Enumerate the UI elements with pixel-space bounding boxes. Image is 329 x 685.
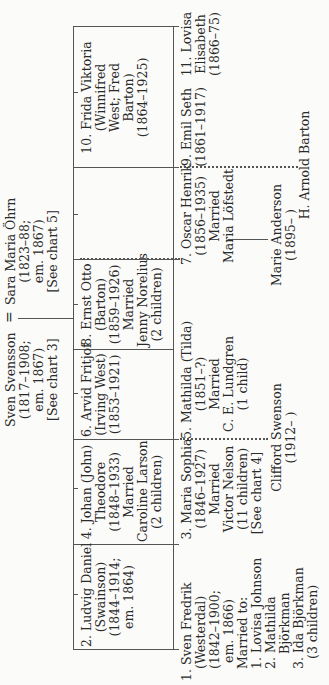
father-dates: (1817–1908; (18, 332, 32, 427)
sibling-bracket-top (73, 27, 74, 650)
descent-line (18, 318, 73, 319)
child-name: Oscar Henrik (179, 164, 194, 249)
child-2: 2. Ludvig Daniel (Swainson) (1844–1914; … (80, 547, 136, 647)
marriage-symbol: = (2, 311, 16, 323)
child-name: Johan (John) (79, 445, 94, 523)
father-chart-ref: [See chart 3] (46, 332, 60, 427)
grandchild-clifford: Clifford Swenson (1912– ) (270, 380, 298, 495)
descent-line (228, 239, 268, 240)
grandchild-name: Clifford Swenson (270, 380, 284, 495)
grandchild-marie: Marie Anderson (1895– ) (270, 180, 298, 290)
child-7: 7. Oscar Henrik (1856–1935) Married Mari… (180, 167, 236, 265)
child-name: Frida Viktoria (79, 41, 94, 129)
divider (73, 167, 173, 168)
genealogy-chart: Sven Svensson (1817–1908; em. 1867) [See… (0, 0, 329, 685)
child-name: Maria Sophia (179, 438, 194, 523)
tick (73, 92, 78, 93)
tick (73, 594, 78, 595)
mother-name: Sara Maria Öhrn (4, 198, 18, 305)
dotted-descent-line (180, 438, 268, 440)
child-3: 3. Maria Sophia (1846–1927) Married Vict… (180, 433, 264, 545)
grandchild-name: H. Arnold Barton (298, 105, 312, 225)
grandchild-arnold: H. Arnold Barton (298, 105, 312, 225)
father-entry: Sven Svensson (1817–1908; em. 1867) [See… (4, 332, 60, 427)
child-name: Emil Seth (179, 88, 194, 150)
child-name: Ludvig Daniel (79, 543, 94, 631)
child-11: 11. Lovisa Elisabeth (1866–75) (180, 3, 222, 85)
child-4: 4. Johan (John) Theodore (1848–1933) Mar… (80, 442, 164, 542)
grandchild-name: Marie Anderson (270, 180, 284, 290)
child-6: 6. Arvid Fritjof (Irving West) (1853–192… (80, 352, 122, 437)
mother-dates: (1823–88; (18, 198, 32, 305)
tick (73, 488, 78, 489)
child-5: 5. Mathilda (Tilda) (1851–?) Married C. … (180, 329, 250, 439)
divider (73, 439, 173, 440)
child-8: 8. Ernst Otto (Barton) (1859–1926) Marri… (80, 262, 164, 347)
child-1: 1. Sven Fredrik (Westerdal) (1842–1900; … (180, 558, 320, 681)
child-name: Sven Fredrik (179, 582, 194, 665)
tick (173, 544, 179, 545)
child-name: Mathilda (Tilda) (179, 321, 194, 423)
mother-chart-ref: [See chart 5] (46, 198, 60, 305)
father-emigration: em. 1867) (32, 332, 46, 427)
child-name: Lovisa (179, 12, 194, 53)
divider (73, 649, 173, 650)
child-name: Arvid Fritjof (79, 343, 94, 421)
mother-emigration: em. 1867) (32, 198, 46, 305)
father-name: Sven Svensson (4, 332, 18, 427)
tick (73, 304, 78, 305)
child-name: Ernst Otto (79, 263, 94, 329)
mother-entry: Sara Maria Öhrn (1823–88; em. 1867) [See… (4, 198, 60, 305)
child-9: 9. Emil Seth (1861–1917) (180, 87, 208, 167)
tick (73, 214, 78, 215)
dotted-descent-line (80, 258, 180, 260)
child-10: 10. Frida Viktoria (Winnifred West; Fred… (80, 30, 150, 165)
divider (73, 26, 173, 27)
tick (73, 393, 78, 394)
sibling-bracket-bottom (173, 27, 174, 650)
dotted-descent-line (180, 166, 298, 168)
